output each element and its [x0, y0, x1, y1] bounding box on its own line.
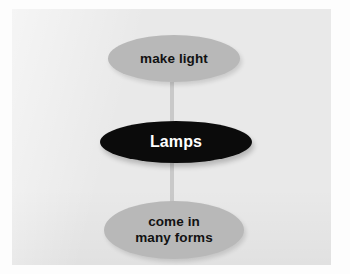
diagram-canvas: make light Lamps come in many forms [0, 0, 350, 274]
node-lamps[interactable]: Lamps [100, 121, 252, 163]
node-come-in-many-forms[interactable]: come in many forms [104, 201, 244, 259]
node-come-in-many-forms-line-2: many forms [135, 230, 213, 245]
node-lamps-label: Lamps [150, 133, 202, 152]
node-make-light[interactable]: make light [108, 35, 240, 82]
diagram-panel: make light Lamps come in many forms [12, 9, 331, 265]
node-come-in-many-forms-line-1: come in [148, 214, 200, 229]
node-make-light-label: make light [140, 51, 208, 67]
node-come-in-many-forms-label: come in many forms [135, 214, 213, 246]
